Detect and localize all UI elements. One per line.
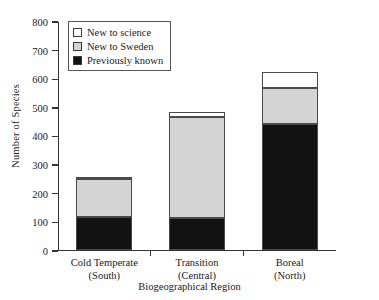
- bar-segment-new-to-sweden: [169, 117, 225, 217]
- y-tick-200: 200: [52, 193, 58, 194]
- chart-figure: Number of Species 0100200300400500600700…: [0, 0, 379, 300]
- y-tick-label: 400: [32, 131, 48, 142]
- bar-transition: [169, 112, 225, 249]
- y-tick-mark: [52, 107, 58, 108]
- bar-segment-new-to-science: [262, 72, 318, 88]
- y-tick-mark: [52, 50, 58, 51]
- y-tick-mark: [52, 193, 58, 194]
- y-tick-label: 700: [32, 45, 48, 56]
- x-axis-title: Biogeographical Region: [0, 281, 379, 292]
- y-tick-mark: [52, 250, 58, 251]
- y-tick-label: 100: [32, 217, 48, 228]
- y-tick-mark: [52, 79, 58, 80]
- bar-cold-temperate: [76, 179, 132, 250]
- y-tick-mark: [52, 21, 58, 22]
- y-tick-mark: [52, 222, 58, 223]
- legend-swatch-new-to-sweden: [73, 42, 82, 51]
- chart-legend: New to science New to Sweden Previously …: [68, 21, 171, 71]
- bar-segment-new-to-science: [76, 177, 132, 179]
- y-tick-label: 500: [32, 102, 48, 113]
- legend-swatch-previously-known: [73, 56, 82, 65]
- bar-segment-new-to-science: [169, 112, 225, 117]
- x-category-label-line: Boreal: [230, 256, 350, 269]
- y-tick-label: 0: [43, 245, 48, 256]
- bar-segment-previously-known: [76, 217, 132, 250]
- bar-segment-previously-known: [169, 218, 225, 250]
- legend-label-previously-known: Previously known: [87, 55, 163, 66]
- x-axis-line: [58, 250, 336, 251]
- y-tick-500: 500: [52, 107, 58, 108]
- y-axis-title-text: Number of Species: [10, 84, 21, 168]
- y-tick-label: 200: [32, 188, 48, 199]
- y-tick-300: 300: [52, 164, 58, 165]
- legend-item-previously-known: Previously known: [73, 53, 163, 67]
- legend-item-new-to-science: New to science: [73, 25, 163, 39]
- bar-segment-previously-known: [262, 124, 318, 250]
- y-tick-700: 700: [52, 50, 58, 51]
- y-tick-400: 400: [52, 136, 58, 137]
- y-tick-mark: [52, 136, 58, 137]
- y-tick-600: 600: [52, 79, 58, 80]
- bar-segment-new-to-sweden: [76, 179, 132, 216]
- legend-label-new-to-sweden: New to Sweden: [87, 41, 154, 52]
- y-axis-title: Number of Species: [6, 0, 24, 252]
- x-category-label-boreal: Boreal(North): [230, 256, 350, 282]
- y-tick-800: 800: [52, 21, 58, 22]
- legend-label-new-to-science: New to science: [87, 27, 151, 38]
- legend-item-new-to-sweden: New to Sweden: [73, 39, 163, 53]
- bar-boreal: [262, 72, 318, 249]
- y-axis-line: [58, 22, 59, 251]
- legend-swatch-new-to-science: [73, 28, 82, 37]
- y-tick-mark: [52, 164, 58, 165]
- y-tick-0: 0: [52, 250, 58, 251]
- bar-segment-new-to-sweden: [262, 88, 318, 124]
- y-tick-label: 300: [32, 160, 48, 171]
- y-tick-100: 100: [52, 222, 58, 223]
- y-tick-label: 600: [32, 74, 48, 85]
- y-tick-label: 800: [32, 17, 48, 28]
